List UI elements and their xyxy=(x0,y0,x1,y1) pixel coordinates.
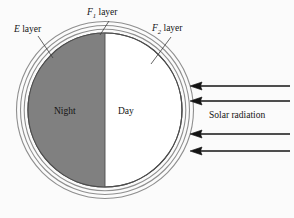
day-label: Day xyxy=(118,107,134,117)
e-layer-label: E layer xyxy=(14,25,41,35)
ionosphere-diagram: E layer F1 layer F2 layer Night Day Sola… xyxy=(0,0,294,218)
f2-layer-label: F2 layer xyxy=(152,24,183,36)
diagram-canvas xyxy=(0,0,294,218)
solar-radiation-label: Solar radiation xyxy=(209,111,265,121)
e-layer-text: layer xyxy=(20,24,41,34)
night-label: Night xyxy=(54,107,76,117)
f1-layer-text: layer xyxy=(96,7,117,17)
f1-layer-label: F1 layer xyxy=(87,8,118,20)
f2-layer-text: layer xyxy=(161,23,182,33)
